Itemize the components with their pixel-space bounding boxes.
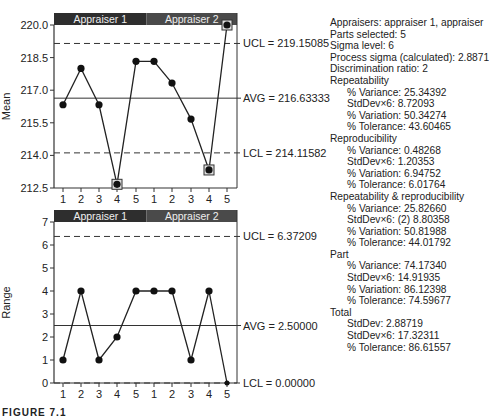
y-tick-label: 218.5 bbox=[20, 52, 48, 64]
data-point bbox=[225, 381, 230, 386]
stat-heading: Total bbox=[330, 307, 489, 319]
stat-value: % Variation: 6.94752 bbox=[330, 168, 489, 180]
stat-value: StdDev×6: 8.72093 bbox=[330, 98, 489, 110]
data-point bbox=[150, 287, 157, 294]
y-tick-label: 0 bbox=[42, 377, 48, 389]
data-point bbox=[77, 287, 84, 294]
y-tick-label: 2 bbox=[42, 331, 48, 343]
x-tick-label: 3 bbox=[188, 193, 194, 205]
x-tick-label: 3 bbox=[96, 388, 102, 400]
stat-value: StdDev×6: 17.32311 bbox=[330, 330, 489, 342]
range-chart: Appraiser 1Appraiser 276543210Range12345… bbox=[0, 210, 318, 401]
x-tick-label: 1 bbox=[60, 388, 66, 400]
data-point bbox=[95, 101, 102, 108]
stat-value: StdDev×6: 14.91935 bbox=[330, 272, 489, 284]
avg-label: AVG = 2.50000 bbox=[243, 320, 318, 332]
lcl-label: LCL = 0.00000 bbox=[243, 377, 315, 389]
x-tick-label: 1 bbox=[151, 388, 157, 400]
x-tick-label: 3 bbox=[96, 193, 102, 205]
data-point bbox=[59, 101, 66, 108]
x-tick-label: 5 bbox=[224, 388, 230, 400]
data-series-line bbox=[63, 291, 227, 383]
stat-value: % Variance: 25.34392 bbox=[330, 87, 489, 99]
x-tick-label: 5 bbox=[133, 193, 139, 205]
x-tick-label: 4 bbox=[206, 388, 212, 400]
stat-value: StdDev: 2.88719 bbox=[330, 318, 489, 330]
figure-caption: FIGURE 7.1 bbox=[2, 407, 66, 418]
y-tick-label: 7 bbox=[42, 216, 48, 228]
mean-chart: Appraiser 1Appraiser 2220.0218.5217.0215… bbox=[0, 13, 330, 206]
ucl-label: UCL = 219.15085 bbox=[243, 37, 329, 49]
group-label: Appraiser 1 bbox=[73, 13, 127, 25]
stat-value: % Variance: 25.82660 bbox=[330, 203, 489, 215]
stat-heading: Repeatability & reproducibility bbox=[330, 191, 489, 203]
y-tick-label: 1 bbox=[42, 354, 48, 366]
x-tick-label: 4 bbox=[114, 388, 120, 400]
data-point bbox=[113, 181, 120, 188]
y-tick-label: 5 bbox=[42, 262, 48, 274]
data-series-line bbox=[63, 25, 227, 184]
stat-value: StdDev×6: (2) 8.80358 bbox=[330, 214, 489, 226]
x-tick-label: 4 bbox=[114, 193, 120, 205]
data-point bbox=[168, 79, 175, 86]
y-axis-label: Range bbox=[0, 286, 12, 318]
data-point bbox=[132, 287, 139, 294]
y-tick-label: 212.5 bbox=[20, 182, 48, 194]
x-tick-label: 2 bbox=[169, 388, 175, 400]
stat-value: StdDev×6: 1.20353 bbox=[330, 156, 489, 168]
data-point bbox=[187, 356, 194, 363]
y-axis-label: Mean bbox=[0, 93, 12, 121]
y-tick-label: 220.0 bbox=[20, 19, 48, 31]
stat-value: % Tolerance: 86.61557 bbox=[330, 342, 489, 354]
stat-heading: Sigma level: 6 bbox=[330, 40, 489, 52]
data-point bbox=[168, 287, 175, 294]
y-tick-label: 215.5 bbox=[20, 117, 48, 129]
x-tick-label: 5 bbox=[133, 388, 139, 400]
data-point bbox=[223, 21, 230, 28]
x-tick-label: 3 bbox=[188, 388, 194, 400]
group-label: Appraiser 1 bbox=[73, 210, 127, 222]
y-tick-label: 217.0 bbox=[20, 84, 48, 96]
stat-heading: Part bbox=[330, 249, 489, 261]
x-tick-label: 1 bbox=[60, 193, 66, 205]
stat-value: % Tolerance: 74.59677 bbox=[330, 295, 489, 307]
y-tick-label: 4 bbox=[42, 285, 48, 297]
data-point bbox=[205, 166, 212, 173]
x-tick-label: 1 bbox=[151, 193, 157, 205]
stat-value: % Variance: 74.17340 bbox=[330, 260, 489, 272]
data-point bbox=[132, 58, 139, 65]
stat-heading: Appraisers: appraiser 1, appraiser bbox=[330, 17, 489, 29]
stat-heading: Process sigma (calculated): 2.8871 bbox=[330, 52, 489, 64]
stat-heading: Repeatability bbox=[330, 75, 489, 87]
stat-value: % Tolerance: 44.01792 bbox=[330, 237, 489, 249]
y-tick-label: 3 bbox=[42, 308, 48, 320]
data-point bbox=[187, 116, 194, 123]
data-point bbox=[150, 58, 157, 65]
stat-heading: Discrimination ratio: 2 bbox=[330, 63, 489, 75]
x-tick-label: 2 bbox=[78, 388, 84, 400]
group-label: Appraiser 2 bbox=[165, 13, 219, 25]
data-point bbox=[59, 356, 66, 363]
data-point bbox=[77, 65, 84, 72]
charts-canvas: Appraiser 1Appraiser 2220.0218.5217.0215… bbox=[0, 0, 330, 414]
stat-value: % Tolerance: 6.01764 bbox=[330, 179, 489, 191]
stats-panel: Appraisers: appraiser 1, appraiserParts … bbox=[330, 17, 489, 353]
x-tick-label: 2 bbox=[169, 193, 175, 205]
stat-value: % Tolerance: 43.60465 bbox=[330, 121, 489, 133]
x-tick-label: 4 bbox=[206, 193, 212, 205]
stat-value: % Variance: 0.48268 bbox=[330, 145, 489, 157]
stat-value: % Variation: 86.12398 bbox=[330, 284, 489, 296]
ucl-label: UCL = 6.37209 bbox=[243, 230, 317, 242]
lcl-label: LCL = 214.11582 bbox=[243, 147, 327, 159]
data-point bbox=[95, 356, 102, 363]
y-tick-label: 6 bbox=[42, 239, 48, 251]
stat-heading: Parts selected: 5 bbox=[330, 29, 489, 41]
x-tick-label: 5 bbox=[224, 193, 230, 205]
stat-value: % Variation: 50.34274 bbox=[330, 110, 489, 122]
data-point bbox=[113, 333, 120, 340]
x-tick-label: 2 bbox=[78, 193, 84, 205]
stat-heading: Reproducibility bbox=[330, 133, 489, 145]
data-point bbox=[205, 287, 212, 294]
avg-label: AVG = 216.63333 bbox=[243, 92, 330, 104]
y-tick-label: 214.0 bbox=[20, 149, 48, 161]
